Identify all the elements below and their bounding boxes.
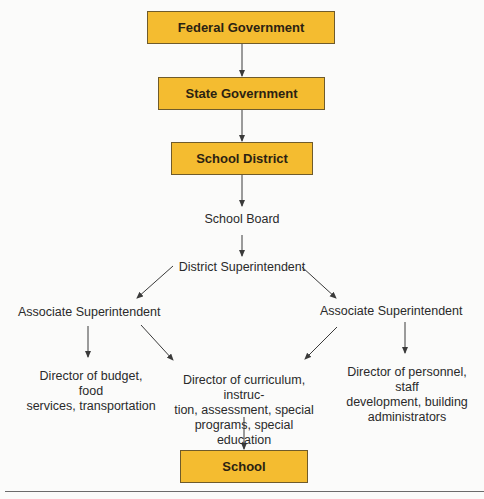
- bottom-divider: [5, 491, 484, 492]
- director-budget-label: Director of budget, food services, trans…: [26, 369, 156, 414]
- director-personnel-label: Director of personnel, staff development…: [338, 365, 476, 425]
- school-label: School: [222, 459, 265, 474]
- school-district-label: School District: [196, 151, 288, 166]
- school-box: School: [180, 450, 308, 483]
- school-board-label: School Board: [192, 212, 292, 227]
- org-chart-diagram: Federal Government State Government Scho…: [0, 0, 484, 499]
- state-government-box: State Government: [158, 77, 325, 110]
- director-curriculum-label: Director of curriculum, instruc- tion, a…: [168, 373, 320, 448]
- school-district-box: School District: [171, 142, 313, 175]
- associate-superintendent-left-label: Associate Superintendent: [18, 305, 146, 320]
- federal-government-label: Federal Government: [178, 20, 304, 35]
- state-government-label: State Government: [186, 86, 298, 101]
- district-superintendent-label: District Superintendent: [172, 260, 312, 275]
- federal-government-box: Federal Government: [147, 11, 335, 44]
- associate-superintendent-right-label: Associate Superintendent: [320, 304, 448, 319]
